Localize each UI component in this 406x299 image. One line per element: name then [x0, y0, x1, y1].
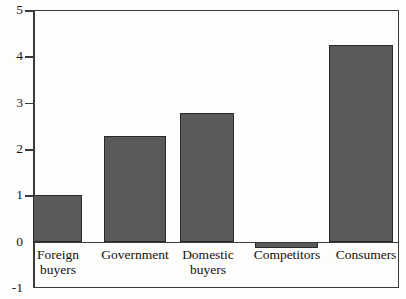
y-tick-label-2: 2: [1, 142, 23, 156]
y-tick-mark-2: [25, 149, 34, 151]
category-label-foreign-buyers: Foreign buyers: [28, 247, 88, 277]
bar-consumers: [329, 45, 393, 241]
category-label-line1: Consumers: [328, 247, 404, 262]
bar-foreign-buyers: [33, 195, 82, 241]
y-tick-mark-3: [25, 103, 34, 105]
category-label-line1: Foreign: [28, 247, 88, 262]
zero-baseline: [33, 242, 399, 244]
category-label-line1: Competitors: [245, 247, 329, 262]
y-tick-label-3: 3: [1, 96, 23, 110]
category-label-line1: Government: [94, 247, 176, 262]
category-label-line1: Domestic: [177, 247, 239, 262]
bar-chart: 5 4 3 2 1 0 -1 Foreign buyers Government…: [0, 0, 406, 299]
y-tick-label-neg1: -1: [1, 281, 23, 295]
category-label-consumers: Consumers: [328, 247, 404, 262]
category-label-domestic-buyers: Domestic buyers: [177, 247, 239, 277]
y-tick-label-4: 4: [1, 49, 23, 63]
category-label-government: Government: [94, 247, 176, 262]
category-label-line2: buyers: [28, 262, 88, 277]
bar-domestic-buyers: [180, 113, 234, 242]
bar-government: [104, 136, 166, 241]
y-tick-mark-4: [25, 56, 34, 58]
category-label-line2: buyers: [177, 262, 239, 277]
y-tick-label-0: 0: [1, 235, 23, 249]
y-tick-mark-5: [25, 10, 34, 12]
y-tick-label-5: 5: [1, 3, 23, 17]
y-tick-label-1: 1: [1, 188, 23, 202]
category-label-competitors: Competitors: [245, 247, 329, 262]
